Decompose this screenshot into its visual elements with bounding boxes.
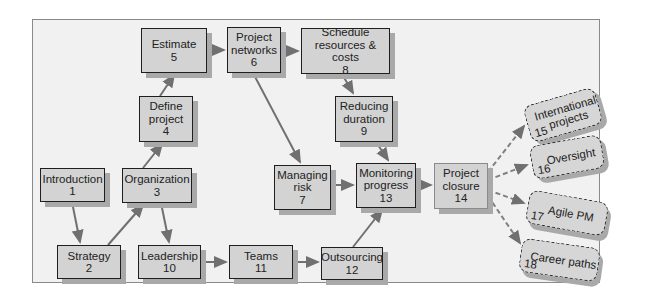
node-label: Agile PM bbox=[547, 204, 595, 224]
node-label: Strategy bbox=[68, 250, 111, 263]
node-define-project: Define project 4 bbox=[139, 96, 193, 142]
node-monitoring-progress: Monitoring progress 13 bbox=[356, 163, 416, 208]
node-number: 13 bbox=[380, 192, 393, 205]
node-project-closure: Project closure 14 bbox=[434, 163, 488, 209]
node-label: Career paths bbox=[530, 250, 598, 272]
node-label: Introduction bbox=[42, 173, 102, 186]
node-number: 7 bbox=[299, 194, 305, 207]
node-number: 8 bbox=[342, 64, 348, 77]
node-label-line1: Project bbox=[443, 167, 479, 180]
node-number: 3 bbox=[154, 186, 160, 199]
node-label: Teams bbox=[244, 250, 278, 263]
node-label-line2: progress bbox=[364, 179, 409, 192]
node-number: 1 bbox=[69, 185, 75, 198]
node-number: 11 bbox=[255, 262, 267, 275]
node-label-line1: Monitoring bbox=[359, 167, 413, 180]
node-number: 10 bbox=[163, 262, 176, 275]
node-label: Oversight bbox=[546, 146, 597, 167]
node-number: 16 bbox=[537, 162, 552, 177]
node-label-line2: closure bbox=[442, 180, 479, 193]
node-label-line1: Reducing bbox=[340, 100, 389, 113]
node-organization: Organization 3 bbox=[122, 168, 192, 203]
node-reducing-duration: Reducing duration 9 bbox=[335, 96, 393, 142]
node-label-line1: Schedule bbox=[322, 26, 370, 39]
node-label-line1: Define bbox=[149, 100, 182, 113]
node-label-line1: Project bbox=[236, 31, 272, 44]
node-label-line2: duration bbox=[343, 113, 385, 126]
node-strategy: Strategy 2 bbox=[57, 245, 121, 279]
node-label: Leadership bbox=[141, 250, 198, 263]
node-number: 5 bbox=[171, 51, 177, 64]
node-number: 6 bbox=[251, 56, 257, 69]
node-number: 2 bbox=[86, 262, 92, 275]
node-number: 14 bbox=[455, 192, 468, 205]
node-label-line2: project bbox=[149, 113, 184, 126]
node-schedule-resources-costs: Schedule resources & costs 8 bbox=[301, 28, 390, 74]
node-label-line2: resources & costs bbox=[302, 39, 389, 64]
node-estimate: Estimate 5 bbox=[141, 28, 207, 73]
node-label: Outsourcing bbox=[321, 251, 383, 264]
node-teams: Teams 11 bbox=[229, 245, 293, 279]
node-introduction: Introduction 1 bbox=[40, 168, 105, 202]
node-project-networks: Project networks 6 bbox=[227, 27, 281, 73]
node-leadership: Leadership 10 bbox=[138, 245, 201, 279]
node-label-line2: networks bbox=[231, 44, 277, 57]
node-number: 9 bbox=[361, 125, 367, 138]
node-managing-risk: Managing risk 7 bbox=[274, 165, 331, 210]
node-number: 18 bbox=[523, 257, 537, 271]
node-label-line1: Managing bbox=[277, 169, 328, 182]
node-number: 12 bbox=[346, 264, 359, 277]
node-label-line2: risk bbox=[294, 181, 312, 194]
node-label: Organization bbox=[124, 173, 189, 186]
node-number: 17 bbox=[530, 208, 545, 223]
node-label: Estimate bbox=[152, 38, 197, 51]
node-outsourcing: Outsourcing 12 bbox=[321, 247, 383, 280]
node-number: 4 bbox=[163, 125, 169, 138]
